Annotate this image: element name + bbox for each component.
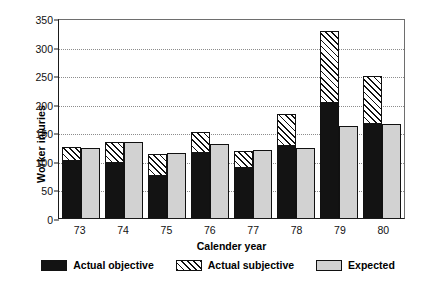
legend-item: Actual objective xyxy=(41,259,154,271)
bar-segment-actual-objective xyxy=(364,123,381,218)
bar-actual xyxy=(148,154,167,218)
bar-segment-actual-subjective xyxy=(364,77,381,124)
bar-group xyxy=(62,20,100,218)
hatched-swatch xyxy=(176,260,202,271)
x-axis-tick-label: 73 xyxy=(74,219,86,236)
bar-group xyxy=(148,20,186,218)
bar-group xyxy=(191,20,229,218)
bar-group xyxy=(105,20,143,218)
x-axis-tick-label: 79 xyxy=(334,219,346,236)
bar-expected xyxy=(339,126,358,218)
bar-segment-actual-objective xyxy=(321,102,338,218)
bar-segment-actual-subjective xyxy=(278,115,295,146)
legend-label: Actual subjective xyxy=(208,259,294,271)
bar-expected xyxy=(382,124,401,218)
light-gray-swatch xyxy=(316,260,342,271)
x-axis-tick-label: 74 xyxy=(117,219,129,236)
legend-item: Actual subjective xyxy=(176,259,294,271)
y-axis-label: Worker injuries xyxy=(35,105,47,183)
legend-item: Expected xyxy=(316,259,395,271)
x-axis-tick-label: 75 xyxy=(161,219,173,236)
legend-label: Expected xyxy=(348,259,395,271)
bar-actual xyxy=(234,151,253,218)
bar-group xyxy=(363,20,401,218)
bar-segment-actual-subjective xyxy=(321,32,338,103)
bar-actual xyxy=(62,147,81,218)
bar-segment-actual-objective xyxy=(106,162,123,218)
x-axis-label: Calender year xyxy=(58,240,405,252)
bar-expected xyxy=(253,150,272,218)
chart-figure: Worker injuries 050100150200250300350 73… xyxy=(0,0,436,288)
bar-expected xyxy=(296,148,315,218)
bar-group xyxy=(277,20,315,218)
bar-groups xyxy=(59,20,404,218)
bar-expected xyxy=(81,148,100,218)
bar-expected xyxy=(124,142,143,218)
bar-actual xyxy=(191,132,210,218)
bar-actual xyxy=(320,31,339,218)
bar-segment-actual-objective xyxy=(192,152,209,218)
bar-expected xyxy=(210,144,229,218)
bar-segment-actual-objective xyxy=(278,145,295,218)
x-axis-tick-label: 78 xyxy=(291,219,303,236)
bar-segment-actual-subjective xyxy=(192,133,209,153)
bar-segment-actual-subjective xyxy=(106,143,123,163)
plot-area: 050100150200250300350 xyxy=(58,19,405,219)
solid-black-swatch xyxy=(41,260,67,271)
bar-expected xyxy=(167,153,186,218)
legend-label: Actual objective xyxy=(73,259,154,271)
x-axis-tick-label: 80 xyxy=(377,219,389,236)
bar-segment-actual-subjective xyxy=(235,152,252,168)
bar-segment-actual-objective xyxy=(63,160,80,218)
bar-actual xyxy=(277,114,296,218)
bar-actual xyxy=(363,76,382,218)
x-axis-tick-label: 77 xyxy=(247,219,259,236)
chart-legend: Actual objectiveActual subjectiveExpecte… xyxy=(0,259,436,271)
bar-segment-actual-objective xyxy=(235,167,252,218)
bar-group xyxy=(320,20,358,218)
bar-segment-actual-subjective xyxy=(149,155,166,176)
x-axis-ticks: 7374757677787980 xyxy=(58,219,405,239)
bar-segment-actual-objective xyxy=(149,175,166,218)
x-axis-tick-label: 76 xyxy=(204,219,216,236)
bar-group xyxy=(234,20,272,218)
bar-actual xyxy=(105,142,124,218)
